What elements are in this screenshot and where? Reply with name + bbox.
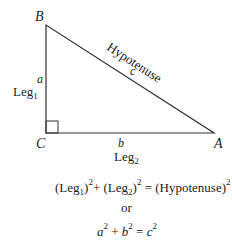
vertex-a-label: A <box>214 137 223 151</box>
or-text: or <box>121 201 132 214</box>
side-a-label: a <box>37 73 43 85</box>
triangle-outline <box>46 25 214 133</box>
right-angle-marker <box>46 121 58 133</box>
pythagorean-equation-symbols: a2 + b2 = c2 <box>97 222 157 238</box>
right-triangle-diagram: B C A a Leg1 b Leg2 Hypotenuse c (Leg1)2… <box>0 0 232 250</box>
leg2-label: Leg2 <box>114 150 139 166</box>
vertex-b-label: B <box>35 10 44 24</box>
leg1-label: Leg1 <box>13 85 38 101</box>
side-c-label: c <box>130 65 135 77</box>
pythagorean-equation-words: (Leg1)2+ (Leg2)2 = (Hypotenuse)2 <box>55 178 230 197</box>
vertex-c-label: C <box>36 137 45 151</box>
triangle-shape <box>0 0 232 250</box>
side-b-label: b <box>118 137 124 149</box>
